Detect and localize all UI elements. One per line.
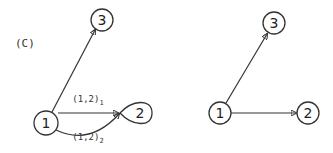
edge-label-1-2-second: (1,2)2 xyxy=(72,132,103,145)
right-node-1-label: 1 xyxy=(216,105,225,121)
panel-label: (C) xyxy=(15,37,35,50)
edge-label-1-2-first: (1,2)1 xyxy=(72,94,103,107)
right-node-2-label: 2 xyxy=(304,105,313,121)
right-graph: 1 2 3 xyxy=(209,12,319,124)
right-node-3-label: 3 xyxy=(270,15,279,31)
diagram-canvas: (C) 1 2 3 (1,2)1 (1,2)2 1 2 3 xyxy=(0,0,333,153)
left-node-3-label: 3 xyxy=(98,12,107,28)
left-graph: 1 2 3 (1,2)1 (1,2)2 xyxy=(34,9,152,145)
left-node-1-label: 1 xyxy=(42,115,51,131)
right-edge-1-3 xyxy=(226,34,267,103)
left-node-2-label: 2 xyxy=(136,105,145,121)
